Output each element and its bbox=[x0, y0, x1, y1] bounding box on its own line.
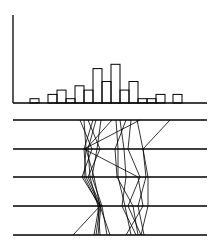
histogram-bar bbox=[93, 69, 102, 103]
histogram-bar bbox=[102, 82, 111, 104]
histogram-and-parallel-coordinates-chart bbox=[0, 0, 218, 249]
histogram-bar bbox=[48, 94, 57, 103]
histogram-bar bbox=[129, 82, 138, 104]
histogram bbox=[13, 15, 207, 103]
histogram-bar bbox=[120, 90, 129, 103]
parallel-coordinates bbox=[13, 120, 207, 235]
histogram-bar bbox=[84, 90, 93, 103]
histogram-bar bbox=[173, 94, 182, 103]
histogram-bars bbox=[30, 64, 182, 103]
histogram-bar bbox=[111, 64, 120, 103]
figure bbox=[0, 0, 218, 249]
parallel-axes bbox=[13, 120, 207, 235]
histogram-bar bbox=[57, 90, 66, 103]
histogram-bar bbox=[156, 94, 165, 103]
histogram-bar bbox=[75, 86, 84, 103]
